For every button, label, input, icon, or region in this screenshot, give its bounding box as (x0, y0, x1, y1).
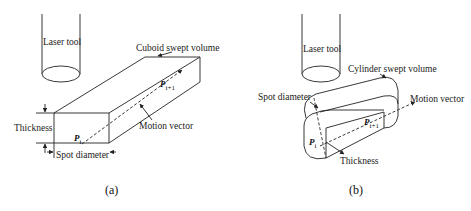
thickness-label-a: Thickness (14, 123, 53, 134)
caption-a: (a) (105, 183, 118, 198)
motion-vector-label-a: Motion vector (139, 121, 193, 132)
panel-a-figure (36, 14, 200, 158)
laser-tool-label-b: Laser tool (303, 44, 341, 55)
cylinder-swept-volume-label: Cylinder swept volume (348, 64, 437, 75)
cylinder-swept-volume (304, 77, 398, 159)
spot-diameter-label-b: Spot diameter (258, 92, 311, 103)
point-pi-label-b: Pi (309, 137, 316, 150)
spot-diameter-label-a: Spot diameter (56, 150, 109, 161)
thickness-label-b: Thickness (340, 156, 379, 167)
diagram-canvas (0, 0, 471, 211)
cuboid-swept-volume-label: Cuboid swept volume (136, 43, 219, 54)
panel-b-figure (302, 14, 415, 159)
laser-tool-a (42, 14, 80, 82)
point-pi-label-a: Pi (74, 133, 81, 146)
motion-vector-label-b: Motion vector (410, 94, 464, 105)
laser-tool-label-a: Laser tool (43, 37, 81, 48)
caption-b: (b) (349, 183, 363, 198)
point-pi1-label-a: Pi+1 (160, 79, 175, 92)
point-pi1-label-b: Pi+1 (364, 117, 379, 130)
